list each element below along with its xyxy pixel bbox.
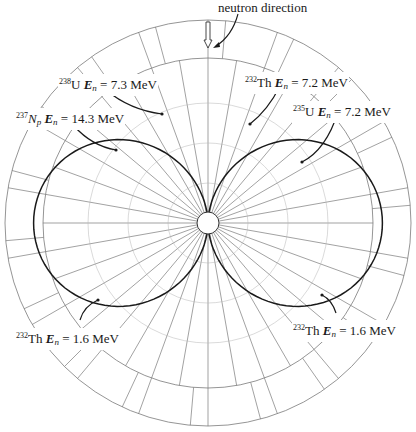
element-symbol: U: [305, 104, 314, 119]
pointer-arrowhead-icon: [213, 42, 220, 48]
element-symbol: N: [28, 111, 37, 126]
grid-spoke: [210, 61, 237, 213]
grid-spoke: [65, 141, 198, 218]
grid-band-segment: [32, 306, 65, 325]
grid-band-segment: [155, 27, 165, 64]
grid-band-segment: [190, 387, 193, 425]
grid-band-segment: [372, 205, 410, 208]
isotope-label-u238: 238U En = 7.3 MeV: [58, 74, 158, 96]
energy-value: = 1.6 MeV: [59, 331, 119, 346]
isotope-label-th232_16_right: 232Th En = 1.6 MeV: [292, 320, 397, 342]
mass-number: 232: [245, 75, 257, 84]
arrowhead-icon: [96, 298, 99, 301]
hollow-arrow-icon: [204, 22, 212, 48]
grid-spoke: [53, 227, 198, 280]
grid-spoke: [126, 80, 203, 213]
grid-spoke: [210, 234, 237, 386]
isotope-label-u235: 235U En = 7.2 MeV: [292, 101, 392, 123]
isotope-label-th232_72: 232Th En = 7.2 MeV: [244, 72, 349, 94]
energy-symbol: E: [44, 111, 53, 126]
energy-value: = 1.6 MeV: [336, 323, 396, 338]
mass-number: 238: [59, 77, 71, 86]
mass-number: 232: [293, 323, 305, 332]
mass-number: 237: [16, 111, 28, 120]
polar-plot: [0, 0, 416, 432]
grid-band-segment: [314, 349, 338, 378]
arrowhead-icon: [114, 148, 117, 151]
grid-spoke: [218, 167, 363, 220]
grid-band-segment: [122, 373, 138, 407]
grid-band-segment: [12, 170, 49, 180]
grid-band-segment: [78, 349, 102, 378]
element-symbol: Th: [257, 75, 271, 90]
energy-symbol: E: [318, 104, 327, 119]
grid-band-segment: [264, 378, 277, 414]
grid-spoke: [126, 233, 203, 366]
grid-spoke: [65, 229, 198, 306]
neutron-direction-label: neutron direction: [217, 0, 308, 15]
grid-band-segment: [251, 382, 261, 419]
grid-band-segment: [139, 32, 152, 68]
energy-value: = 7.2 MeV: [288, 75, 348, 90]
grid-band-segment: [139, 378, 152, 414]
grid-band-segment: [358, 137, 392, 153]
grid-band-segment: [351, 122, 384, 141]
grid-band-segment: [278, 39, 294, 73]
energy-value: = 7.2 MeV: [331, 104, 391, 119]
center-hub-circle: [197, 212, 219, 234]
grid-band-segment: [6, 237, 44, 240]
grid-band-segment: [303, 358, 325, 389]
grid-band-segment: [264, 32, 277, 68]
grid-spoke: [218, 141, 351, 218]
element-symbol: Th: [305, 323, 319, 338]
arrowhead-icon: [160, 112, 163, 115]
grid-spoke: [46, 194, 198, 221]
energy-value: = 7.3 MeV: [97, 77, 157, 92]
grid-spoke: [152, 68, 205, 213]
mass-number: 232: [16, 331, 28, 340]
grid-spoke: [46, 225, 198, 252]
isotope-label-th232_16_left: 232Th En = 1.6 MeV: [15, 328, 120, 350]
fission-angular-distribution-diagram: neutron direction 238U En = 7.3 MeV237Np…: [0, 0, 416, 432]
element-subscript: p: [37, 117, 42, 127]
energy-value: = 14.3 MeV: [58, 111, 125, 126]
grid-spoke: [152, 233, 205, 378]
neutron-direction-arrow-icon: [204, 14, 238, 48]
grid-spoke: [212, 233, 265, 378]
energy-symbol: E: [84, 77, 93, 92]
grid-spoke: [219, 194, 371, 221]
grid-spoke: [219, 225, 371, 252]
grid-band-segment: [24, 293, 58, 309]
mass-number: 235: [293, 104, 305, 113]
arrowhead-icon: [248, 122, 251, 125]
arrowhead-icon: [300, 160, 303, 163]
arrowhead-icon: [320, 293, 323, 296]
element-symbol: U: [71, 77, 80, 92]
grid-band-segment: [367, 266, 404, 276]
grid-spoke: [218, 227, 363, 280]
element-symbol: Th: [28, 331, 42, 346]
grid-spoke: [214, 233, 291, 366]
grid-spoke: [53, 167, 198, 220]
center-hub: [197, 212, 219, 234]
grid-spoke: [179, 61, 206, 213]
grid-spoke: [214, 80, 291, 213]
pointer-curve: [216, 14, 238, 46]
grid-spoke: [218, 229, 351, 306]
grid-spoke: [179, 234, 206, 386]
isotope-label-np237: 237Np En = 14.3 MeV: [15, 108, 125, 130]
